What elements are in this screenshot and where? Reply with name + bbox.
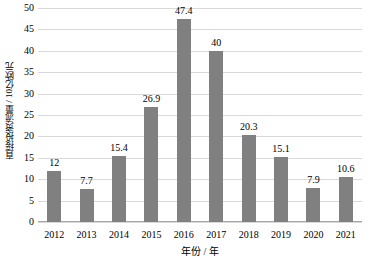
- bar-slot: 15.4: [103, 8, 135, 222]
- y-axis-tick-labels: 05101520253035404550: [16, 8, 36, 222]
- y-axis-tick-label: 30: [24, 89, 34, 99]
- bar-value-label: 20.3: [240, 122, 258, 132]
- bar-value-label: 7.9: [307, 175, 320, 185]
- x-axis-tick-label: 2013: [77, 229, 97, 240]
- x-axis-tick-label: 2015: [141, 229, 161, 240]
- bar-slot: 7.9: [297, 8, 329, 222]
- x-axis-tick-label: 2012: [44, 229, 64, 240]
- bar-slot: 26.9: [135, 8, 167, 222]
- bar-value-label: 47.4: [175, 6, 193, 16]
- x-tick-slot: 2013: [70, 224, 102, 240]
- x-tick-slot: 2016: [168, 224, 200, 240]
- bar-slot: 20.3: [232, 8, 264, 222]
- y-axis-tick-label: 40: [24, 46, 34, 56]
- y-axis-tick-label: 50: [24, 3, 34, 13]
- bar-value-label: 7.7: [80, 176, 93, 186]
- bar-slot: 15.1: [265, 8, 297, 222]
- x-tick-slot: 2018: [232, 224, 264, 240]
- bar-slot: 12: [38, 8, 70, 222]
- bars-container: 127.715.426.947.44020.315.17.910.6: [38, 8, 362, 222]
- x-axis-tick-label: 2020: [303, 229, 323, 240]
- bar-value-label: 15.4: [110, 143, 128, 153]
- x-axis-tick-labels: 2012201320142015201620172018201920202021: [38, 224, 362, 240]
- bar-value-label: 40: [211, 38, 221, 48]
- x-tick-slot: 2019: [265, 224, 297, 240]
- y-axis-tick-label: 15: [24, 153, 34, 163]
- x-axis-title: 年份 / 年: [38, 243, 362, 258]
- y-axis-tick-label: 5: [29, 196, 34, 206]
- y-axis-title: 直接投资流量 / 10亿欧元: [0, 0, 16, 222]
- bar-value-label: 12: [49, 158, 59, 168]
- bar[interactable]: [80, 189, 94, 222]
- x-axis-tick-label: 2014: [109, 229, 129, 240]
- bar[interactable]: [274, 157, 288, 222]
- x-tick-slot: 2015: [135, 224, 167, 240]
- bar-slot: 40: [200, 8, 232, 222]
- bar[interactable]: [177, 19, 191, 222]
- y-axis-tick-label: 10: [24, 174, 34, 184]
- x-axis-tick-label: 2018: [239, 229, 259, 240]
- bar[interactable]: [112, 156, 126, 222]
- bar[interactable]: [242, 135, 256, 222]
- bar-slot: 7.7: [70, 8, 102, 222]
- y-axis-title-text: 直接投资流量 / 10亿欧元: [2, 62, 15, 159]
- bar[interactable]: [144, 107, 158, 222]
- bar[interactable]: [47, 171, 61, 222]
- gridline: [38, 222, 362, 223]
- y-axis-tick-label: 0: [29, 217, 34, 227]
- bar-slot: 10.6: [330, 8, 362, 222]
- bar-value-label: 26.9: [143, 94, 161, 104]
- y-axis-tick-label: 20: [24, 131, 34, 141]
- x-axis-tick-label: 2021: [336, 229, 356, 240]
- y-axis-tick-label: 35: [24, 67, 34, 77]
- x-axis-tick-label: 2019: [271, 229, 291, 240]
- y-axis-tick-label: 25: [24, 110, 34, 120]
- plot-area: 127.715.426.947.44020.315.17.910.6: [38, 8, 362, 222]
- x-tick-slot: 2020: [297, 224, 329, 240]
- x-axis-tick-label: 2016: [174, 229, 194, 240]
- bar-slot: 47.4: [168, 8, 200, 222]
- bar[interactable]: [209, 51, 223, 222]
- x-axis-tick-label: 2017: [206, 229, 226, 240]
- bar-chart: 直接投资流量 / 10亿欧元 05101520253035404550 127.…: [0, 0, 372, 264]
- bar[interactable]: [339, 177, 353, 222]
- x-tick-slot: 2017: [200, 224, 232, 240]
- x-tick-slot: 2012: [38, 224, 70, 240]
- x-tick-slot: 2021: [330, 224, 362, 240]
- bar-value-label: 10.6: [337, 164, 355, 174]
- x-tick-slot: 2014: [103, 224, 135, 240]
- bar-value-label: 15.1: [272, 144, 290, 154]
- y-axis-tick-label: 45: [24, 24, 34, 34]
- bar[interactable]: [306, 188, 320, 222]
